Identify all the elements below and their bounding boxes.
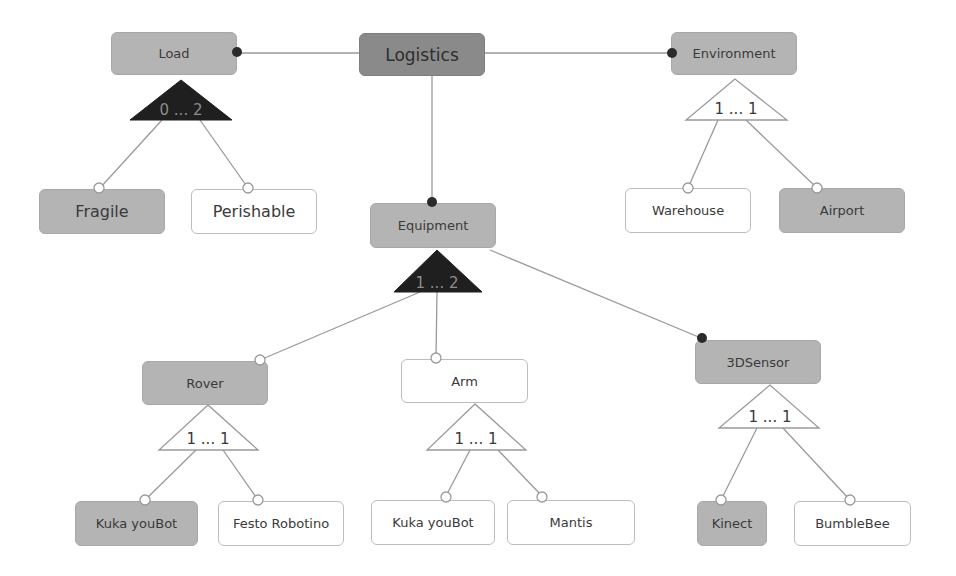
feature-warehouse[interactable]: Warehouse bbox=[625, 188, 751, 233]
feature-model-diagram: 0 ... 2 1 ... 1 1 ... 2 1 ... 1 1 ... 1 … bbox=[0, 0, 956, 576]
group-cardinality-environment: 1 ... 1 bbox=[715, 100, 758, 118]
group-3dsensor: 1 ... 1 bbox=[719, 385, 819, 428]
feature-fragile[interactable]: Fragile bbox=[39, 189, 165, 234]
group-equipment: 1 ... 2 bbox=[394, 250, 482, 292]
edge-arm-mantis bbox=[498, 450, 542, 496]
feature-label: 3DSensor bbox=[727, 355, 790, 370]
feature-label: Arm bbox=[451, 374, 478, 389]
feature-label: Kuka youBot bbox=[96, 516, 177, 531]
feature-label: Warehouse bbox=[652, 203, 724, 218]
edge-load-perishable bbox=[200, 120, 248, 188]
group-cardinality-3dsensor: 1 ... 1 bbox=[749, 408, 792, 426]
group-cardinality-equipment: 1 ... 2 bbox=[416, 274, 459, 292]
feature-label: Kuka youBot bbox=[392, 515, 473, 530]
feature-festo-robotino[interactable]: Festo Robotino bbox=[218, 501, 344, 546]
edge-3dsensor-kinect bbox=[721, 428, 757, 500]
edge-equipment-rover bbox=[260, 292, 420, 360]
feature-mantis[interactable]: Mantis bbox=[507, 500, 635, 545]
feature-label: Rover bbox=[186, 376, 223, 391]
feature-arm[interactable]: Arm bbox=[401, 359, 528, 403]
edge-rover-festo bbox=[223, 450, 258, 500]
diagram-edges: 0 ... 2 1 ... 1 1 ... 2 1 ... 1 1 ... 1 … bbox=[0, 0, 956, 576]
feature-kinect[interactable]: Kinect bbox=[697, 501, 767, 546]
group-load: 0 ... 2 bbox=[130, 80, 232, 120]
feature-rover-kuka-youbot[interactable]: Kuka youBot bbox=[75, 501, 198, 546]
feature-perishable[interactable]: Perishable bbox=[191, 189, 317, 234]
feature-rover[interactable]: Rover bbox=[142, 361, 268, 405]
group-cardinality-arm: 1 ... 1 bbox=[455, 430, 498, 448]
group-arm: 1 ... 1 bbox=[427, 404, 526, 450]
feature-label: BumbleBee bbox=[815, 516, 890, 531]
feature-label: Perishable bbox=[213, 202, 296, 221]
feature-label: Equipment bbox=[398, 218, 469, 233]
feature-label: Airport bbox=[820, 203, 865, 218]
edge-3dsensor-bumblebee bbox=[783, 428, 850, 500]
feature-label: Fragile bbox=[75, 202, 128, 221]
group-rover: 1 ... 1 bbox=[159, 405, 258, 450]
feature-bumblebee[interactable]: BumbleBee bbox=[794, 501, 911, 546]
edge-equipment-arm bbox=[436, 292, 437, 357]
feature-label: Festo Robotino bbox=[233, 516, 329, 531]
edge-environment-airport bbox=[746, 120, 817, 188]
feature-airport[interactable]: Airport bbox=[779, 188, 905, 233]
feature-3dsensor[interactable]: 3DSensor bbox=[695, 340, 821, 384]
edge-load-fragile bbox=[100, 120, 162, 188]
feature-environment[interactable]: Environment bbox=[671, 32, 797, 75]
group-cardinality-rover: 1 ... 1 bbox=[187, 430, 230, 448]
feature-load[interactable]: Load bbox=[111, 32, 237, 75]
edge-rover-kuka bbox=[145, 450, 196, 500]
feature-label: Mantis bbox=[550, 515, 593, 530]
feature-label: Environment bbox=[692, 46, 775, 61]
feature-label: Load bbox=[158, 46, 189, 61]
group-cardinality-load: 0 ... 2 bbox=[160, 101, 203, 119]
feature-logistics-root[interactable]: Logistics bbox=[359, 33, 485, 76]
edge-arm-kuka bbox=[446, 450, 470, 496]
feature-label: Kinect bbox=[712, 516, 753, 531]
feature-arm-kuka-youbot[interactable]: Kuka youBot bbox=[371, 500, 495, 545]
edge-environment-warehouse bbox=[688, 120, 718, 188]
edge-equipment-3dsensor bbox=[490, 250, 701, 338]
feature-label: Logistics bbox=[385, 45, 459, 65]
feature-equipment[interactable]: Equipment bbox=[370, 203, 496, 248]
group-environment: 1 ... 1 bbox=[686, 79, 787, 120]
